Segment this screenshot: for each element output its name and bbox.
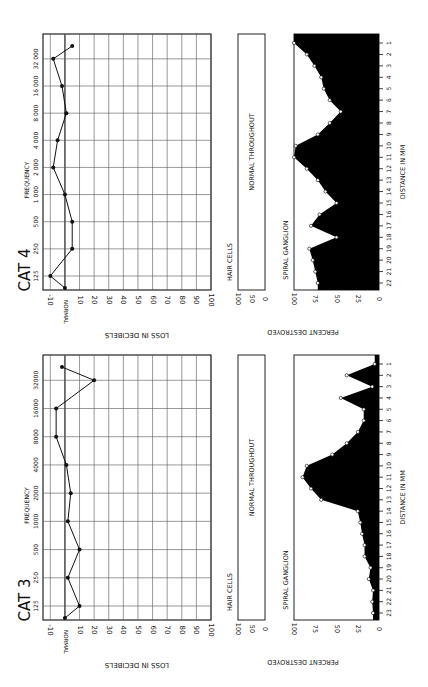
ganglion-point — [345, 374, 348, 377]
ganglion-point — [335, 236, 338, 239]
distance-tick-label: 8 — [385, 121, 392, 125]
db-tick-label: 20 — [90, 626, 98, 635]
distance-tick-label: 2 — [385, 52, 392, 56]
percent-tick-label: 0 — [375, 297, 383, 301]
ganglion-point — [339, 396, 342, 399]
distance-tick-label: 6 — [385, 419, 392, 423]
distance-tick-label: 13 — [385, 496, 392, 504]
db-tick-label: 40 — [119, 296, 127, 305]
audiogram-point — [78, 604, 82, 608]
ganglion-point — [362, 408, 365, 411]
ganglion-point — [308, 247, 311, 250]
normal-throughout-note: NORMAL THROUGHOUT — [248, 113, 256, 190]
distance-tick-label: 17 — [385, 222, 392, 230]
ganglion-point — [292, 156, 295, 159]
distance-tick-label: 19 — [385, 564, 392, 572]
freq-tick-label: 16 000 — [32, 75, 39, 96]
db-tick-label: 80 — [178, 626, 186, 635]
ganglion-point — [320, 498, 323, 501]
spiral-ganglion-panel: 1234567891011121314151617181920212210075… — [267, 34, 406, 336]
ganglion-point — [305, 167, 308, 170]
audiogram-point — [64, 463, 68, 467]
distance-tick-label: 22 — [385, 598, 392, 606]
cat-title: CAT 3 — [16, 578, 34, 621]
distance-tick-label: 15 — [385, 518, 392, 526]
audiogram: -10NORMAL1020304050607080901001252505001… — [23, 355, 215, 669]
freq-tick-label: 2 000 — [32, 159, 39, 176]
percent-tick-label: 100 — [290, 623, 298, 635]
ganglion-point — [362, 419, 365, 422]
distance-tick-label: 4 — [385, 396, 392, 400]
figure: -10NORMAL1020304050607080901001252505001… — [0, 0, 428, 687]
db-tick-label: 80 — [178, 296, 186, 305]
db-normal-label: NORMAL — [63, 300, 69, 325]
distance-axis-label: DISTANCE IN MM — [399, 470, 407, 525]
percent-tick-label: 75 — [311, 295, 319, 303]
ganglion-point — [345, 442, 348, 445]
audiogram-point — [66, 519, 70, 523]
distance-tick-label: 7 — [385, 430, 392, 434]
audiogram-point — [66, 576, 70, 580]
audiogram-point — [70, 247, 74, 251]
ganglion-point — [311, 259, 314, 262]
ganglion-point — [367, 577, 370, 580]
ganglion-point — [301, 476, 304, 479]
freq-tick-label: 500 — [32, 216, 39, 228]
distance-tick-label: 11 — [385, 153, 392, 161]
spiral-ganglion-label: SPIRAL GANGLION — [282, 220, 290, 279]
db-tick-label: 30 — [105, 296, 113, 305]
distance-tick-label: 8 — [385, 441, 392, 445]
distance-tick-label: 17 — [385, 541, 392, 549]
audiogram-point — [51, 165, 55, 169]
db-tick-label: 70 — [163, 296, 171, 305]
distance-tick-label: 5 — [385, 87, 392, 91]
freq-tick-label: 4 000 — [32, 132, 39, 149]
ganglion-point — [309, 487, 312, 490]
panel-cat4: -10NORMAL1020304050607080901001252505001… — [16, 34, 407, 339]
distance-tick-label: 16 — [385, 530, 392, 538]
db-tick-label: 10 — [76, 296, 84, 305]
audiogram-point — [60, 365, 64, 369]
db-tick-label: -10 — [46, 624, 54, 635]
ganglion-point — [292, 41, 295, 44]
percent-tick-label: 25 — [354, 295, 362, 303]
audiogram-point — [63, 193, 67, 197]
distance-tick-label: 19 — [385, 245, 392, 253]
audiogram-point — [54, 407, 58, 411]
ganglion-point — [316, 281, 319, 284]
distance-tick-label: 14 — [385, 188, 392, 196]
distance-tick-label: 18 — [385, 552, 392, 560]
distance-tick-label: 9 — [385, 452, 392, 456]
freq-tick-label: 1000 — [32, 514, 39, 529]
panel-cat3: -10NORMAL1020304050607080901001252505001… — [16, 355, 407, 669]
distance-tick-label: 5 — [385, 407, 392, 411]
hair-cells-panel: 100500HAIR CELLSNORMAL THROUGHOUT — [226, 355, 269, 635]
ganglion-point — [331, 453, 334, 456]
distance-tick-label: 7 — [385, 109, 392, 113]
distance-tick-label: 3 — [385, 64, 392, 68]
distance-tick-label: 9 — [385, 132, 392, 136]
audiogram-point — [54, 435, 58, 439]
db-tick-label: 90 — [192, 626, 200, 635]
db-tick-label: 20 — [90, 296, 98, 305]
ganglion-point — [356, 510, 359, 513]
distance-tick-label: 3 — [385, 385, 392, 389]
hair-cells-tick: 50 — [248, 295, 256, 303]
ganglion-point — [359, 521, 362, 524]
audiogram-point — [63, 616, 67, 620]
db-tick-label: 100 — [207, 293, 215, 306]
hair-cells-label: HAIR CELLS — [226, 243, 234, 281]
ganglion-point — [314, 270, 317, 273]
db-normal-label: NORMAL — [63, 630, 69, 655]
audiogram-frame — [43, 34, 211, 290]
db-tick-label: 60 — [149, 626, 157, 635]
distance-tick-label: 20 — [385, 575, 392, 583]
db-tick-label: 60 — [149, 296, 157, 305]
percent-tick-label: 50 — [333, 625, 341, 633]
distance-tick-label: 12 — [385, 165, 392, 173]
db-tick-label: 40 — [119, 626, 127, 635]
distance-tick-label: 1 — [385, 41, 392, 45]
ganglion-point — [371, 611, 374, 614]
distance-tick-label: 16 — [385, 210, 392, 218]
distance-tick-label: 10 — [385, 462, 392, 470]
